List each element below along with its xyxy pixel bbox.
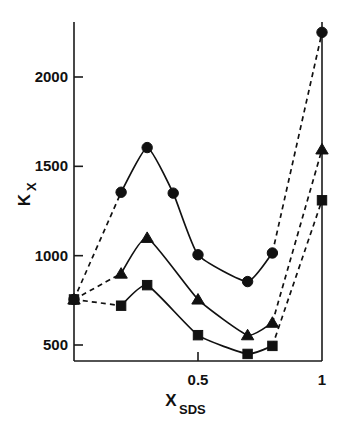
x-tick-label: 1 [318, 371, 326, 388]
data-marker-square [116, 301, 125, 310]
x-axis-title: X SDS [165, 391, 206, 417]
data-marker-triangle [115, 268, 127, 279]
y-tick-label: 1000 [35, 247, 68, 264]
data-marker-circle [267, 248, 277, 258]
chart-figure: 500100015002000 0.51 K X X SDS [0, 0, 347, 430]
data-marker-triangle [266, 317, 278, 328]
x-axis-title-sub: SDS [179, 402, 206, 417]
series-triangles-dashed-segment [272, 149, 322, 322]
data-marker-circle [242, 276, 252, 286]
x-tick-label: 0.5 [188, 371, 209, 388]
y-axis-title-sub: X [24, 182, 39, 191]
data-marker-square [69, 295, 78, 304]
series-triangles-dashed-segment [74, 274, 121, 300]
data-marker-square [142, 280, 151, 289]
series-circles-solid-segment [121, 148, 272, 282]
data-marker-circle [116, 187, 126, 197]
series-markers-group [68, 27, 328, 359]
y-axis-title-main: K [15, 193, 34, 206]
y-axis-title: K X [15, 182, 39, 206]
y-tick-label: 500 [43, 336, 68, 353]
data-marker-triangle [141, 232, 153, 243]
x-axis-title-main: X [165, 391, 177, 410]
data-marker-square [193, 330, 202, 339]
data-marker-square [243, 349, 252, 358]
data-marker-square [317, 196, 326, 205]
series-squares-dashed-segment [74, 299, 121, 305]
y-tick-label: 2000 [35, 68, 68, 85]
y-tick-label: 1500 [35, 157, 68, 174]
plot-svg: 500100015002000 0.51 K X X SDS [0, 0, 347, 430]
data-marker-circle [168, 188, 178, 198]
data-marker-circle [317, 27, 327, 37]
data-marker-circle [142, 142, 152, 152]
data-marker-square [268, 341, 277, 350]
x-tick-group: 0.51 [188, 352, 327, 388]
data-marker-triangle [316, 143, 328, 154]
series-curves-group [74, 32, 322, 354]
series-circles-dashed-segment [272, 32, 322, 253]
data-marker-circle [193, 250, 203, 260]
y-tick-group: 500100015002000 [35, 68, 83, 353]
series-circles-dashed-segment [74, 192, 121, 299]
